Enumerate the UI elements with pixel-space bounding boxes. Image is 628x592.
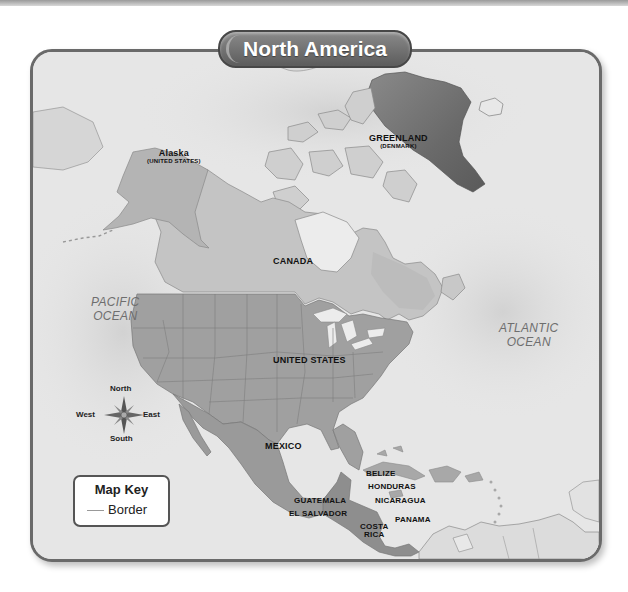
belize-label: BELIZE — [366, 470, 396, 478]
canada-label: CANADA — [273, 257, 313, 266]
map-title-banner: North America — [218, 30, 412, 68]
compass-rose: North West East South — [76, 384, 172, 456]
pacific-line1: PACIFIC — [91, 296, 140, 310]
alaska-note: (UNITED STATES) — [147, 158, 201, 164]
alaska-name: Alaska — [147, 149, 201, 158]
atlantic-ocean-label: ATLANTIC OCEAN — [499, 322, 559, 350]
border-line-symbol — [87, 510, 104, 511]
costa-rica-line2: RICA — [360, 531, 388, 539]
honduras-label: HONDURAS — [368, 483, 416, 491]
nicaragua-label: NICARAGUA — [375, 497, 426, 505]
map-key-border-label: Border — [108, 502, 147, 517]
compass-west: West — [76, 410, 95, 419]
mexico-label: MEXICO — [265, 442, 302, 451]
el-salvador-label: EL SALVADOR — [289, 510, 347, 518]
atlantic-line2: OCEAN — [499, 336, 559, 350]
map-title: North America — [220, 32, 410, 66]
guatemala-label: GUATEMALA — [294, 497, 346, 505]
pacific-ocean-label: PACIFIC OCEAN — [91, 296, 140, 324]
panama-label: PANAMA — [395, 516, 431, 524]
map-key: Map Key Border — [73, 475, 170, 527]
united-states-label: UNITED STATES — [273, 356, 346, 365]
compass-rose-icon — [102, 394, 146, 436]
atlantic-line1: ATLANTIC — [499, 322, 559, 336]
greenland-label: GREENLAND (DENMARK) — [369, 134, 428, 150]
greenland-name: GREENLAND — [369, 134, 428, 143]
top-edge-bar — [0, 0, 628, 6]
alaska-label: Alaska (UNITED STATES) — [147, 149, 201, 165]
pacific-line2: OCEAN — [91, 310, 140, 324]
costa-rica-label: COSTA RICA — [360, 523, 388, 540]
compass-north: North — [110, 384, 131, 393]
greenland-note: (DENMARK) — [369, 143, 428, 149]
map-key-title: Map Key — [75, 482, 168, 497]
